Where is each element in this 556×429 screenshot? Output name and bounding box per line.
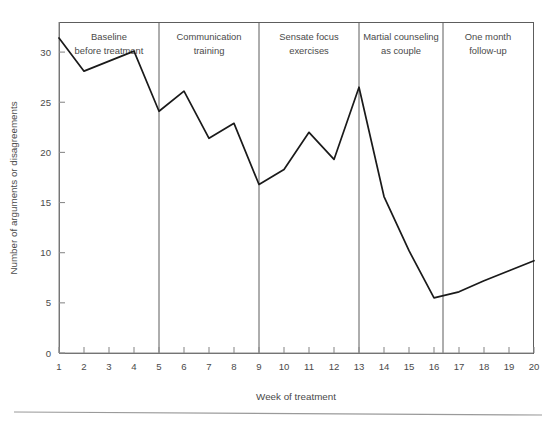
x-tick-label-14: 14 (379, 361, 390, 372)
phase-label-counseling-line2: as couple (381, 45, 421, 56)
y-tick-label-15: 15 (40, 197, 51, 208)
phase-label-communication-line2: training (194, 45, 225, 56)
x-tick-label-9: 9 (256, 361, 261, 372)
chart-figure: Baseline before treatment Communication … (0, 0, 556, 429)
x-tick-label-16: 16 (429, 361, 440, 372)
phase-label-sensate-line1: Sensate focus (279, 31, 339, 42)
x-axis-ticks: 1234567891011121314151617181920 (56, 347, 539, 372)
phase-label-communication-line1: Communication (176, 31, 241, 42)
x-tick-label-12: 12 (329, 361, 340, 372)
phase-label-followup-line2: follow-up (469, 45, 507, 56)
x-tick-label-11: 11 (304, 361, 314, 372)
y-tick-label-0: 0 (46, 348, 51, 359)
y-tick-label-5: 5 (46, 297, 51, 308)
plot-frame (60, 23, 534, 354)
data-series-line (59, 38, 534, 298)
y-tick-label-30: 30 (40, 47, 51, 58)
x-tick-label-5: 5 (156, 361, 161, 372)
x-tick-label-8: 8 (231, 361, 236, 372)
x-tick-label-17: 17 (454, 361, 465, 372)
y-axis-title: Number of arguments or disagreements (8, 101, 19, 274)
footer-divider-rule (14, 412, 542, 415)
phase-label-followup-line1: One month (465, 31, 511, 42)
phase-label-sensate-line2: exercises (289, 45, 329, 56)
phase-label-counseling-line1: Martial counseling (363, 31, 439, 42)
line-chart-svg: Baseline before treatment Communication … (0, 0, 556, 429)
x-axis-title: Week of treatment (256, 391, 336, 402)
y-tick-label-25: 25 (40, 97, 51, 108)
x-tick-label-7: 7 (206, 361, 211, 372)
y-axis-ticks: 051015202530 (40, 47, 65, 359)
x-tick-label-4: 4 (131, 361, 137, 372)
phase-dividers (159, 22, 443, 353)
x-tick-label-2: 2 (81, 361, 86, 372)
phase-label-baseline-line1: Baseline (91, 31, 127, 42)
phase-labels: Baseline before treatment Communication … (75, 31, 512, 56)
x-tick-label-1: 1 (56, 361, 61, 372)
x-tick-label-6: 6 (181, 361, 186, 372)
x-tick-label-20: 20 (529, 361, 540, 372)
x-tick-label-15: 15 (404, 361, 415, 372)
y-tick-label-10: 10 (40, 247, 51, 258)
y-tick-label-20: 20 (40, 147, 51, 158)
x-tick-label-13: 13 (354, 361, 365, 372)
x-tick-label-10: 10 (279, 361, 290, 372)
x-tick-label-3: 3 (106, 361, 111, 372)
x-tick-label-19: 19 (504, 361, 515, 372)
x-tick-label-18: 18 (479, 361, 490, 372)
